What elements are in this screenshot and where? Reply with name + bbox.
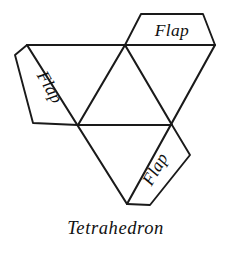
tetrahedron-net-diagram: Flap Flap Flap — [0, 0, 231, 254]
figure-caption: Tetrahedron — [0, 218, 231, 239]
flap-label-top: Flap — [154, 20, 189, 40]
tetrahedron-net-figure: Flap Flap Flap Tetrahedron — [0, 0, 231, 254]
face-fills — [15, 14, 215, 205]
